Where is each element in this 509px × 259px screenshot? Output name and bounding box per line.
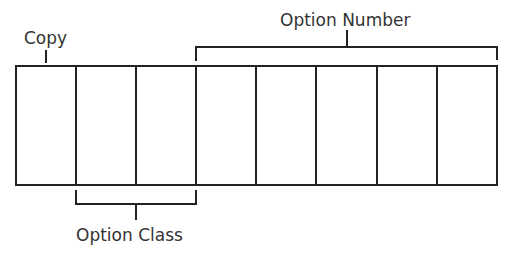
cell-7 <box>376 65 438 186</box>
option-number-bracket-right <box>496 46 498 60</box>
cell-3 <box>135 65 197 186</box>
copy-label: Copy <box>24 28 67 48</box>
copy-tick <box>45 50 47 63</box>
option-number-label: Option Number <box>280 10 410 30</box>
cell-1 <box>15 65 77 186</box>
option-number-bracket-left <box>195 46 197 61</box>
option-number-bracket <box>195 46 498 48</box>
option-class-bracket-stem <box>135 204 137 220</box>
cell-2 <box>75 65 137 186</box>
option-class-bracket-right <box>195 190 197 204</box>
option-class-label: Option Class <box>76 225 183 245</box>
cell-6 <box>315 65 378 186</box>
cell-4 <box>195 65 257 186</box>
cell-5 <box>255 65 317 186</box>
option-class-bracket-left <box>75 190 77 204</box>
cell-8 <box>436 65 498 186</box>
